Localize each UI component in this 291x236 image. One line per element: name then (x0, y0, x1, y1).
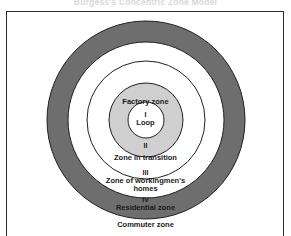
label-zone-4-name: Residential zone (0, 204, 291, 212)
figure-container: Burgess's Concentric Zone Model Factory … (0, 0, 291, 236)
label-zone-3-name-line2: homes (0, 185, 291, 193)
label-zone-5-name: Commuter zone (0, 221, 291, 229)
label-zone-2-name: Zone in transition (0, 154, 291, 162)
label-factory-zone: Factory zone (0, 98, 291, 106)
label-zone-2-roman: II (0, 142, 291, 150)
label-zone-1-name: Loop (0, 119, 291, 127)
